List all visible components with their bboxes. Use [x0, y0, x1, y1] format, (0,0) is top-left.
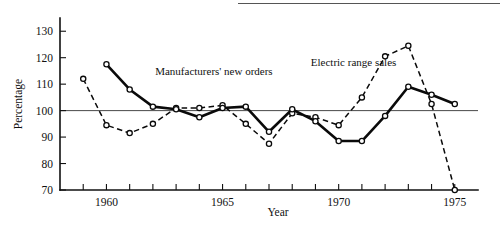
series-annotation-label: Electric range sales — [311, 56, 397, 68]
x-tick-label: 1970 — [327, 196, 350, 208]
y-tick-label: 130 — [36, 25, 54, 37]
data-point-marker — [383, 113, 388, 118]
data-point-marker — [104, 123, 109, 128]
y-tick-label: 110 — [36, 78, 53, 90]
data-point-marker — [336, 123, 341, 128]
y-tick-label: 70 — [42, 184, 54, 196]
chart-figure: 708090100110120130 1960196519701975 Perc… — [0, 0, 502, 228]
data-point-marker — [290, 107, 295, 112]
data-point-marker — [243, 121, 248, 126]
data-point-marker — [336, 138, 341, 143]
data-point-marker — [220, 105, 225, 110]
x-tick-group: 1960196519701975 — [83, 184, 466, 208]
data-point-marker — [452, 187, 457, 192]
y-tick-group: 708090100110120130 — [36, 25, 66, 196]
data-point-marker — [313, 119, 318, 124]
y-axis-title: Percentage — [12, 79, 25, 129]
data-point-marker — [359, 95, 364, 100]
y-tick-label: 90 — [42, 131, 54, 143]
data-point-marker — [406, 43, 411, 48]
data-point-marker — [266, 141, 271, 146]
data-point-marker — [150, 104, 155, 109]
data-point-marker — [127, 87, 132, 92]
x-tick-label: 1960 — [95, 196, 118, 208]
data-point-marker — [429, 92, 434, 97]
series-annotation-label: Manufacturers' new orders — [155, 65, 272, 77]
x-tick-label: 1965 — [211, 196, 234, 208]
data-point-marker — [452, 101, 457, 106]
axes — [60, 18, 478, 190]
data-point-marker — [359, 138, 364, 143]
annotation-layer: Manufacturers' new ordersElectric range … — [155, 56, 396, 77]
data-point-marker — [197, 105, 202, 110]
data-point-marker — [127, 131, 132, 136]
data-point-marker — [406, 84, 411, 89]
data-point-marker — [197, 115, 202, 120]
data-point-marker — [266, 129, 271, 134]
data-point-marker — [429, 101, 434, 106]
data-point-marker — [243, 104, 248, 109]
data-point-marker — [81, 76, 86, 81]
y-tick-label: 100 — [36, 105, 54, 117]
x-axis-title: Year — [267, 206, 288, 218]
data-point-marker — [150, 121, 155, 126]
data-point-marker — [174, 107, 179, 112]
x-tick-label: 1975 — [443, 196, 466, 208]
line-chart: 708090100110120130 1960196519701975 Perc… — [0, 0, 502, 228]
y-tick-label: 80 — [42, 158, 54, 170]
data-point-marker — [104, 62, 109, 67]
y-tick-label: 120 — [36, 52, 54, 64]
